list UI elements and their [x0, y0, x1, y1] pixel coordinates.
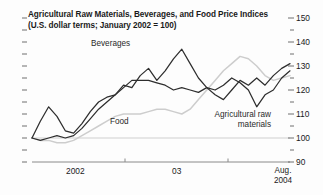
series-line-agricultural-raw-materials	[32, 71, 290, 141]
y-tick-label-100: 100	[296, 133, 310, 143]
x-end-label-month: Aug.	[266, 166, 300, 176]
x-tick-label-03: 03	[172, 166, 181, 176]
y-tick-label-130: 130	[296, 61, 310, 71]
y-tick-label-110: 110	[296, 109, 309, 119]
series-line-food	[32, 56, 290, 142]
annotation-agricultural-raw-line2: materials	[203, 120, 271, 129]
price-indices-chart: Agricultural Raw Materials, Beverages, a…	[0, 0, 323, 195]
annotation-food: Food	[110, 117, 129, 126]
x-end-label-year: 2004	[266, 176, 300, 186]
annotation-beverages: Beverages	[91, 39, 130, 48]
y-tick-label-120: 120	[296, 85, 310, 95]
left-axis-ticks	[22, 18, 27, 162]
annotation-agricultural-raw-line1: Agricultural raw	[203, 110, 271, 119]
x-end-label: Aug. 2004	[266, 166, 300, 185]
y-tick-label-150: 150	[296, 13, 310, 23]
x-tick-label-2002: 2002	[66, 166, 85, 176]
right-axis-ticks	[288, 18, 294, 162]
y-tick-label-140: 140	[296, 37, 310, 47]
